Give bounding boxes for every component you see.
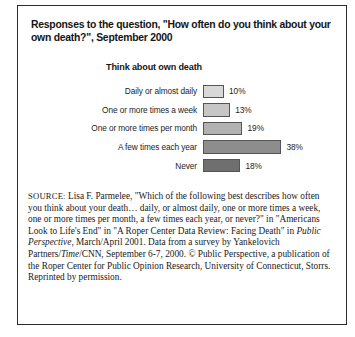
- source-text-part1: Lisa F. Parmelee, "Which of the followin…: [28, 191, 320, 236]
- bar-row: One or more times a week13%: [18, 101, 345, 120]
- bar-category-label: One or more times per month: [18, 123, 203, 133]
- bar-row: Never18%: [18, 156, 345, 175]
- bar-value-label: 38%: [286, 142, 303, 152]
- source-note: SOURCE: Lisa F. Parmelee, "Which of the …: [28, 191, 334, 284]
- bar-value-label: 18%: [245, 161, 262, 171]
- bar-rect: [203, 122, 242, 136]
- bar-row: Daily or almost daily10%: [18, 82, 345, 101]
- bar-value-label: 19%: [247, 123, 264, 133]
- bar-value-label: 13%: [235, 105, 252, 115]
- source-magazine-name: Time: [61, 249, 79, 259]
- bar-track: 19%: [203, 119, 345, 138]
- bar-track: 13%: [203, 101, 345, 120]
- bar-track: 18%: [203, 156, 345, 175]
- bar-rect: [203, 159, 240, 173]
- bar-category-label: A few times each year: [18, 142, 203, 152]
- bar-rect: [203, 103, 230, 117]
- bar-value-label: 10%: [229, 86, 246, 96]
- bar-rect: [203, 140, 281, 154]
- bar-track: 38%: [203, 138, 345, 157]
- bar-category-label: Never: [18, 161, 203, 171]
- source-label: SOURCE:: [28, 191, 66, 201]
- bar-category-label: One or more times a week: [18, 105, 203, 115]
- bar-row: One or more times per month19%: [18, 119, 345, 138]
- bar-track: 10%: [203, 82, 345, 101]
- figure-title: Responses to the question, "How often do…: [31, 18, 331, 45]
- bar-row: A few times each year38%: [18, 138, 345, 157]
- bar-rect: [203, 85, 224, 99]
- bar-category-label: Daily or almost daily: [18, 86, 203, 96]
- bar-rows: Daily or almost daily10%One or more time…: [18, 82, 345, 175]
- chart-heading: Think about own death: [18, 62, 290, 72]
- figure-container: Responses to the question, "How often do…: [17, 5, 347, 325]
